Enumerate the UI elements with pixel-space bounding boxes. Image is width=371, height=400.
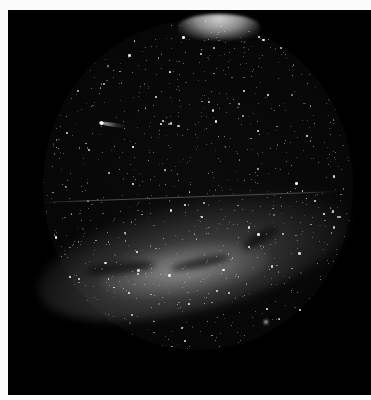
star-field — [8, 10, 371, 395]
nebula-blob — [262, 318, 270, 326]
night-sky-photo — [8, 10, 371, 395]
